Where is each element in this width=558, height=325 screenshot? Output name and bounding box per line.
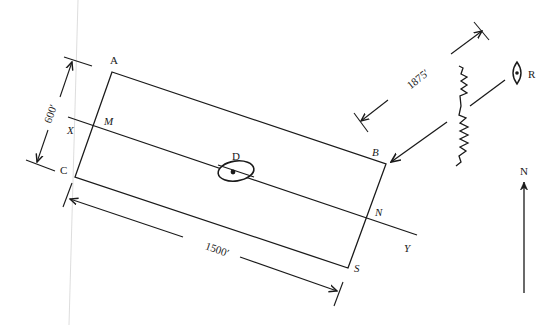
corner-label-a: A [110,54,118,66]
dim-600-bottom-tick [26,160,55,171]
corner-label-b: B [372,146,379,158]
well-label-r: R [528,68,536,80]
well-r-dot-icon [515,71,519,75]
ridge-zigzag-icon [456,66,468,166]
dim-1500-arrow-left [70,199,183,237]
dim-1500-left-tick [63,183,72,207]
north-arrow: N [520,165,528,293]
dim-1875-arrow-down [361,100,388,121]
dimension-1875: 1875′ [354,22,489,132]
flow-arrow-to-b [391,122,447,162]
dim-1500-right-tick [334,282,343,306]
section-label-x: X [66,124,75,136]
site-plan-diagram: A B C S X M N Y D 600′ 1500′ 1875′ R [0,0,558,325]
well-d [217,159,255,184]
dim-1875-bottom-tick [354,113,368,132]
dim-1500-arrow-right [240,257,337,291]
dim-600-top-tick [64,57,92,66]
dimension-600: 600′ [26,57,92,171]
section-label-n: N [374,206,383,218]
north-label: N [520,165,528,177]
corner-label-c: C [60,164,67,176]
line-r-to-ridge [470,80,505,106]
dim-1500-label: 1500′ [204,240,231,259]
section-label-m: M [103,115,114,127]
dim-600-arrow-up [60,62,72,97]
section-label-y: Y [404,242,412,254]
page-fold-guide [69,0,78,325]
dimension-1500: 1500′ [63,183,343,306]
dim-600-label: 600′ [41,103,59,125]
dim-1875-arrow-up [451,31,482,54]
well-d-dot-icon [231,170,236,175]
dim-600-arrow-down [37,130,48,162]
corner-label-s: S [354,262,360,274]
well-r: R [513,62,536,84]
dim-1875-label: 1875′ [404,67,431,91]
well-label-d: D [232,150,240,162]
